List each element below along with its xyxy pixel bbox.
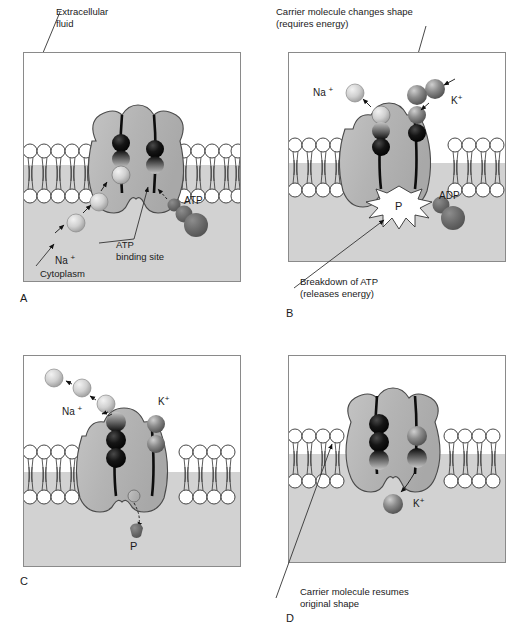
panel-c-artwork (24, 356, 241, 567)
panel-b: Carrier molecule changes shape (requires… (264, 0, 527, 330)
atp-binding-line2: binding site (116, 251, 164, 262)
k-charge: + (458, 93, 463, 102)
atp-symbol: ATP (184, 195, 203, 206)
k-symbol: K (158, 396, 165, 407)
k-label-d: K+ (413, 496, 424, 509)
na-label-c: Na + (62, 404, 82, 417)
carrier-resumes-shape-label: Carrier molecule resumes original shape (300, 586, 409, 609)
panel-d: K+ Carrier molecule resumes original sha… (264, 330, 527, 638)
adp-symbol: ADP (439, 190, 460, 201)
breakdown-atp-label: Breakdown of ATP (releases energy) (300, 276, 378, 299)
k-label-b: K+ (451, 93, 462, 106)
na-charge: + (329, 85, 334, 94)
carrier-change-line1: Carrier molecule changes shape (276, 6, 413, 17)
na-symbol: Na (55, 255, 68, 266)
na-charge: + (78, 404, 83, 413)
atp-binding-line1: ATP (116, 239, 134, 250)
na-symbol: Na (313, 87, 326, 98)
potassium-ion-released (383, 494, 403, 514)
panel-c-frame: Na + K+ P (23, 355, 241, 567)
cytoplasm-text: Cytoplasm (40, 268, 85, 279)
extracellular-fluid-label: Extracellular fluid (56, 6, 108, 29)
panel-d-frame: K+ (288, 355, 506, 563)
panel-c: Na + K+ P C (0, 330, 264, 638)
k-charge: + (165, 394, 170, 403)
carrier-changes-shape-label: Carrier molecule changes shape (requires… (276, 6, 413, 29)
adp-label-b: ADP (439, 190, 460, 201)
phosphate-free (130, 524, 143, 538)
panel-b-frame: Na + K+ P ADP (288, 52, 506, 262)
phosphate-label-c: P (130, 540, 137, 552)
sodium-release-arrow (363, 99, 371, 107)
na-label-b: Na + (313, 85, 333, 98)
k-charge: + (420, 496, 425, 505)
phosphate-on-carrier (128, 490, 140, 502)
panel-d-artwork (289, 356, 506, 563)
k-label-c: K+ (158, 394, 169, 407)
cytoplasm-label: Cytoplasm (40, 268, 85, 280)
panel-letter-c: C (20, 575, 28, 587)
binding-site-spheres-left (372, 106, 390, 156)
adp-molecule (433, 197, 466, 231)
extracellular-fluid-line2: fluid (56, 18, 73, 29)
na-label-a: Na + (55, 253, 75, 266)
extracellular-fluid-line1: Extracellular (56, 6, 108, 17)
k-symbol: K (413, 498, 420, 509)
na-charge: + (71, 253, 76, 262)
k-symbol: K (451, 95, 458, 106)
phosphate-symbol: P (130, 540, 137, 552)
phosphate-symbol: P (395, 200, 402, 212)
resumes-line1: Carrier molecule resumes (300, 586, 409, 597)
binding-site-spheres-left (369, 414, 389, 470)
atp-label-a: ATP (184, 195, 203, 206)
atp-binding-site-label: ATP binding site (116, 239, 164, 262)
panel-letter-b: B (286, 307, 293, 319)
carrier-change-line2: (requires energy) (276, 18, 348, 29)
panel-letter-d: D (286, 612, 294, 624)
resumes-line2: original shape (300, 598, 359, 609)
breakdown-line1: Breakdown of ATP (300, 276, 378, 287)
potassium-ions (407, 79, 445, 105)
breakdown-line2: (releases energy) (300, 288, 374, 299)
na-symbol: Na (62, 406, 75, 417)
panel-a: Extracellular fluid (0, 0, 264, 320)
sodium-ion-released (346, 84, 364, 102)
binding-site-spheres-left (106, 412, 126, 468)
panel-a-frame: Na + ATP ATP binding site (23, 52, 241, 282)
panel-letter-a: A (20, 292, 27, 304)
binding-site-spheres-left (112, 134, 130, 184)
phosphate-label-b: P (395, 200, 402, 212)
